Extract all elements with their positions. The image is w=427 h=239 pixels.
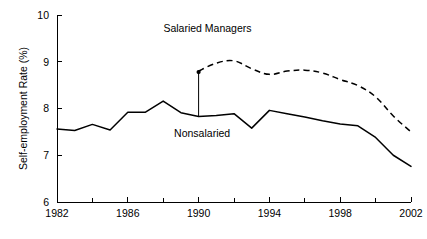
- series-line-salaried-managers: [199, 60, 411, 131]
- pointer-arrow-icon: [197, 70, 201, 117]
- annotation-nonsalaried: Nonsalaried: [174, 127, 230, 139]
- line-chart: 678910 198219861990199419982002 Self-emp…: [0, 0, 427, 239]
- series-line-nonsalaried: [57, 101, 411, 166]
- y-tick-label: 7: [43, 149, 49, 161]
- x-tick-label: 1982: [45, 207, 69, 219]
- y-axis-tick-labels: 678910: [37, 9, 49, 208]
- x-tick-label: 1990: [187, 207, 211, 219]
- y-tick-label: 10: [37, 9, 49, 21]
- y-axis-title: Self-employment Rate (%): [17, 47, 29, 170]
- x-axis-tick-labels: 198219861990199419982002: [45, 207, 423, 219]
- x-tick-label: 1994: [258, 207, 282, 219]
- y-axis-ticks: [57, 15, 62, 202]
- x-tick-label: 1986: [116, 207, 140, 219]
- chart-axes: [57, 15, 411, 202]
- annotation-salaried-managers: Salaried Managers: [163, 22, 251, 34]
- x-tick-label: 1998: [329, 207, 353, 219]
- x-axis-ticks: [57, 197, 411, 202]
- y-tick-label: 8: [43, 102, 49, 114]
- x-tick-label: 2002: [399, 207, 423, 219]
- chart-container: 678910 198219861990199419982002 Self-emp…: [0, 0, 427, 239]
- y-tick-label: 9: [43, 56, 49, 68]
